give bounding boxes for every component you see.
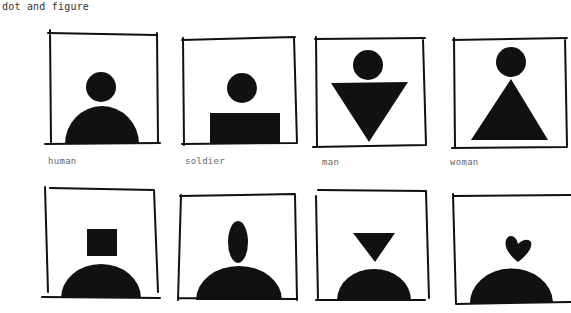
label-woman: woman [450, 157, 479, 167]
body-semicircle [470, 269, 553, 304]
body-inverted-triangle [331, 82, 408, 142]
figure-grid [0, 0, 571, 313]
head-circle [227, 73, 257, 103]
label-soldier: soldier [185, 156, 225, 166]
body-semicircle [61, 264, 141, 298]
body-triangle [471, 79, 548, 140]
body-semicircle [196, 266, 282, 300]
head-circle [353, 50, 383, 80]
body-semicircle [65, 106, 139, 144]
head-inverted-triangle [353, 233, 395, 262]
head-circle [496, 47, 526, 77]
label-man: man [322, 157, 339, 167]
head-circle [86, 72, 116, 102]
body-semicircle [337, 269, 411, 300]
head-ellipse [228, 221, 248, 263]
label-human: human [48, 156, 77, 166]
head-heart [505, 236, 531, 262]
head-square [87, 229, 117, 256]
body-rectangle [210, 113, 280, 144]
